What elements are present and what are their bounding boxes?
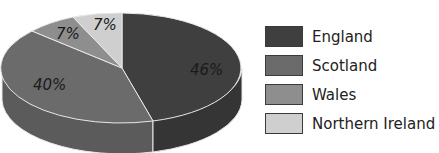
legend-swatch [265,55,303,76]
legend-swatch [265,26,303,47]
label-scotland: 40% [33,76,66,94]
legend-item-scotland: Scotland [265,51,435,80]
legend-label: Scotland [312,57,377,75]
pie-chart: 46% 40% 7% 7% [0,0,250,153]
legend-swatch [265,113,303,134]
legend-item-england: England [265,22,435,51]
legend-item-northern-ireland: Northern Ireland [265,109,435,138]
legend-label: England [312,28,373,46]
legend-item-wales: Wales [265,80,435,109]
label-wales: 7% [56,25,80,43]
legend-swatch [265,84,303,105]
legend: England Scotland Wales Northern Ireland [265,22,435,138]
label-northern-ireland: 7% [93,16,117,34]
legend-label: Wales [312,86,356,104]
legend-label: Northern Ireland [312,115,435,133]
label-england: 46% [190,61,223,79]
